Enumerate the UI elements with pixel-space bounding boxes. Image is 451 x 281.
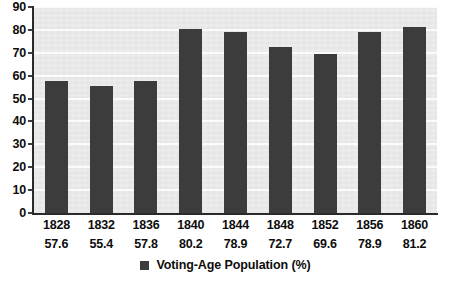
x-label-group: 182857.6 bbox=[34, 216, 79, 253]
x-label-group: 184872.7 bbox=[258, 216, 303, 253]
y-tick-mark bbox=[28, 120, 32, 122]
bar bbox=[269, 47, 292, 213]
y-tick-label: 10 bbox=[0, 183, 26, 197]
x-category-label: 1856 bbox=[347, 216, 392, 235]
y-tick-mark bbox=[28, 143, 32, 145]
bar-chart: 0102030405060708090 182857.6183255.41836… bbox=[0, 0, 451, 281]
bar bbox=[179, 29, 202, 213]
x-value-label: 81.2 bbox=[392, 235, 437, 253]
y-tick-labels: 0102030405060708090 bbox=[0, 0, 34, 281]
y-tick-mark bbox=[28, 29, 32, 31]
x-value-label: 57.6 bbox=[34, 235, 79, 253]
y-tick-label: 90 bbox=[0, 0, 26, 14]
gridline bbox=[34, 29, 437, 31]
chart-legend: Voting-Age Population (%) bbox=[0, 258, 451, 272]
x-category-label: 1836 bbox=[124, 216, 169, 235]
y-tick-label: 80 bbox=[0, 23, 26, 37]
legend-label: Voting-Age Population (%) bbox=[156, 258, 310, 272]
bar bbox=[314, 54, 337, 213]
x-value-label: 80.2 bbox=[168, 235, 213, 253]
bar bbox=[45, 81, 68, 213]
x-category-label: 1852 bbox=[303, 216, 348, 235]
y-tick-mark bbox=[28, 166, 32, 168]
x-category-label: 1860 bbox=[392, 216, 437, 235]
x-value-label: 78.9 bbox=[213, 235, 258, 253]
x-category-label: 1848 bbox=[258, 216, 303, 235]
plot-area bbox=[34, 7, 437, 213]
x-value-label: 57.8 bbox=[124, 235, 169, 253]
y-tick-label: 20 bbox=[0, 160, 26, 174]
x-axis-labels: 182857.6183255.4183657.8184080.2184478.9… bbox=[34, 216, 437, 254]
x-label-group: 185269.6 bbox=[303, 216, 348, 253]
y-tick-label: 50 bbox=[0, 92, 26, 106]
x-value-label: 55.4 bbox=[79, 235, 124, 253]
x-value-label: 78.9 bbox=[347, 235, 392, 253]
x-label-group: 183657.8 bbox=[124, 216, 169, 253]
y-tick-mark bbox=[28, 6, 32, 8]
y-tick-label: 60 bbox=[0, 69, 26, 83]
y-tick-mark bbox=[28, 189, 32, 191]
bar bbox=[358, 32, 381, 213]
gridline bbox=[34, 7, 437, 8]
x-label-group: 186081.2 bbox=[392, 216, 437, 253]
bar bbox=[90, 86, 113, 213]
legend-swatch-icon bbox=[140, 261, 149, 270]
x-category-label: 1844 bbox=[213, 216, 258, 235]
x-label-group: 185678.9 bbox=[347, 216, 392, 253]
y-tick-mark bbox=[28, 212, 32, 214]
bar bbox=[224, 32, 247, 213]
x-category-label: 1832 bbox=[79, 216, 124, 235]
y-tick-mark bbox=[28, 75, 32, 77]
y-tick-label: 70 bbox=[0, 46, 26, 60]
x-label-group: 184478.9 bbox=[213, 216, 258, 253]
x-value-label: 72.7 bbox=[258, 235, 303, 253]
y-tick-label: 30 bbox=[0, 137, 26, 151]
x-value-label: 69.6 bbox=[303, 235, 348, 253]
x-label-group: 183255.4 bbox=[79, 216, 124, 253]
x-category-label: 1840 bbox=[168, 216, 213, 235]
bar bbox=[403, 27, 426, 213]
bar bbox=[134, 81, 157, 213]
x-axis-line bbox=[32, 213, 438, 215]
y-tick-mark bbox=[28, 52, 32, 54]
x-label-group: 184080.2 bbox=[168, 216, 213, 253]
y-tick-label: 0 bbox=[0, 206, 26, 220]
y-tick-label: 40 bbox=[0, 114, 26, 128]
x-category-label: 1828 bbox=[34, 216, 79, 235]
y-tick-mark bbox=[28, 98, 32, 100]
